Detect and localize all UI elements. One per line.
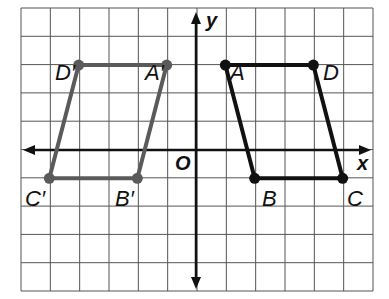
- vertex-B': [132, 173, 143, 184]
- label-B-prime: B′: [115, 186, 135, 211]
- label-A: A: [228, 60, 245, 85]
- vertex-D: [308, 60, 319, 71]
- label-C: C: [347, 186, 363, 211]
- x-axis-label: x: [356, 152, 369, 174]
- axes: [23, 12, 371, 289]
- y-axis-arrow-down-icon: [191, 277, 201, 289]
- label-A-prime: A′: [143, 60, 165, 85]
- y-axis-arrow-up-icon: [191, 12, 201, 24]
- y-axis-label: y: [205, 9, 218, 31]
- label-D-prime: D′: [55, 60, 76, 85]
- vertex-C': [44, 173, 55, 184]
- label-B: B: [262, 186, 277, 211]
- origin-label: O: [175, 152, 191, 174]
- label-C-prime: C′: [25, 186, 46, 211]
- x-axis-arrow-left-icon: [23, 145, 35, 155]
- coordinate-plane: A D B C A′ D′ C′ B′ y x O: [0, 0, 389, 299]
- vertex-B: [249, 173, 260, 184]
- label-D: D: [323, 60, 339, 85]
- vertex-C: [337, 173, 348, 184]
